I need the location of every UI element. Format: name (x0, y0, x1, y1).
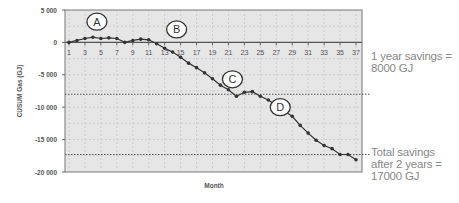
data-point (107, 36, 111, 40)
annotation-line: 17000 GJ (371, 170, 442, 182)
x-tick-label: 17 (193, 49, 201, 56)
x-tick-label: 7 (115, 49, 119, 56)
data-point (131, 39, 135, 43)
x-tick-label: 19 (209, 49, 217, 56)
data-point (298, 124, 302, 128)
data-point (123, 41, 127, 45)
data-point (171, 50, 175, 54)
y-tick-label: 0 (53, 39, 57, 46)
data-point (306, 131, 310, 135)
data-point (354, 158, 358, 162)
y-tick-label: -15 000 (35, 136, 57, 143)
x-tick-label: 5 (99, 49, 103, 56)
x-tick-label: 35 (336, 49, 344, 56)
data-point (330, 147, 334, 151)
x-tick-label: 23 (240, 49, 248, 56)
marker-b: B (167, 21, 187, 38)
data-point (243, 90, 247, 94)
data-point (251, 90, 255, 94)
data-point (267, 98, 271, 102)
y-axis-label: CUSUM Gas (GJ) (16, 65, 24, 118)
x-tick-label: 27 (272, 49, 280, 56)
one-year-savings-annotation: 1 year savings = 8000 GJ (371, 50, 452, 74)
annotation-line: Total savings (371, 146, 442, 158)
x-tick-label: 11 (145, 49, 152, 56)
annotation-line: 1 year savings = (371, 50, 452, 62)
x-tick-label: 25 (256, 49, 264, 56)
x-tick-label: 9 (131, 49, 135, 56)
annotation-line: after 2 years = (371, 158, 442, 170)
data-point (219, 83, 223, 87)
y-tick-label: -20 000 (35, 169, 57, 176)
x-tick-label: 3 (83, 49, 87, 56)
data-point (338, 153, 342, 157)
data-point (346, 153, 350, 157)
x-tick-label: 37 (352, 49, 360, 56)
data-point (139, 37, 143, 41)
y-axis-ticks: 5 0000-5 000-10 000-15 000-20 000 (35, 7, 65, 176)
marker-a: A (87, 13, 107, 30)
data-point (195, 66, 199, 70)
data-point (83, 37, 87, 41)
data-point (314, 138, 318, 142)
marker-label: B (173, 23, 180, 35)
marker-label: C (228, 73, 236, 85)
y-tick-label: 5 000 (41, 7, 58, 14)
data-point (179, 56, 183, 60)
data-point (67, 41, 71, 45)
x-tick-label: 29 (288, 49, 296, 56)
data-point (227, 88, 231, 92)
data-point (211, 77, 215, 81)
x-tick-label: 13 (161, 49, 169, 56)
x-tick-label: 31 (304, 49, 312, 56)
data-point (115, 37, 119, 41)
x-tick-label: 21 (225, 49, 233, 56)
total-savings-annotation: Total savings after 2 years = 17000 GJ (371, 146, 442, 182)
data-point (187, 61, 191, 65)
y-tick-label: -5 000 (39, 71, 58, 78)
marker-d: D (270, 99, 290, 116)
marker-label: A (93, 16, 101, 28)
data-point (155, 42, 159, 46)
marker-label: D (276, 101, 284, 113)
data-point (147, 38, 151, 42)
x-tick-label: 1 (67, 49, 71, 56)
data-point (290, 114, 294, 118)
data-point (259, 94, 263, 98)
data-point (163, 46, 167, 50)
marker-c: C (222, 71, 242, 88)
data-point (99, 37, 103, 41)
annotation-line: 8000 GJ (371, 62, 452, 74)
y-tick-label: -10 000 (35, 104, 57, 111)
x-axis-label: Month (204, 182, 224, 189)
data-point (322, 144, 326, 148)
data-point (91, 35, 95, 39)
data-point (235, 94, 239, 98)
data-point (75, 39, 79, 43)
x-tick-label: 33 (320, 49, 328, 56)
data-point (203, 71, 207, 75)
